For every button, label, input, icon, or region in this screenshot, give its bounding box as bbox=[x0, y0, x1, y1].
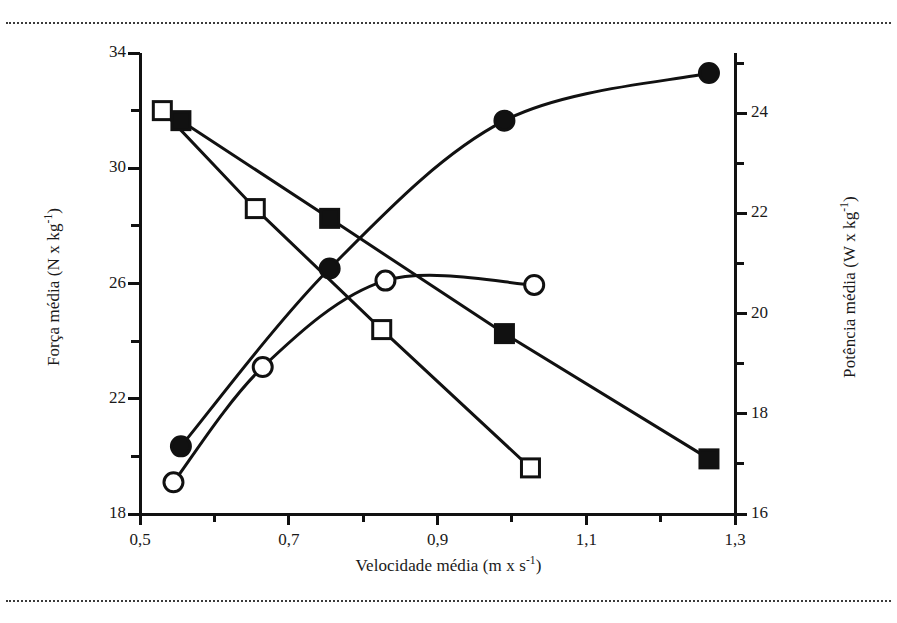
y-left-axis-title-exponent: -1 bbox=[42, 214, 55, 224]
y-right-tick-label-1: 22 bbox=[751, 202, 811, 222]
series-line-1 bbox=[173, 275, 534, 482]
data-point-marker-filled-square-2-0 bbox=[172, 112, 190, 130]
x-axis-title-exponent: -1 bbox=[526, 554, 536, 567]
data-point-marker-open-square-0-0 bbox=[153, 102, 171, 120]
x-tick-label-3: 1,1 bbox=[556, 530, 616, 550]
y-right-tick-label-0: 24 bbox=[751, 102, 811, 122]
axis-lines bbox=[140, 53, 735, 514]
figure-container: Velocidade média (m x s-1) Força média (… bbox=[0, 0, 897, 623]
data-point-marker-open-square-0-1 bbox=[246, 200, 264, 218]
data-point-marker-filled-circle-3-0 bbox=[171, 437, 190, 456]
series-markers bbox=[153, 64, 718, 492]
x-tick-label-0: 0,5 bbox=[110, 530, 170, 550]
series-line-0 bbox=[162, 111, 530, 468]
y-left-tick-label-0: 34 bbox=[66, 42, 126, 62]
y-left-tick-label-3: 22 bbox=[66, 388, 126, 408]
x-tick-label-2: 0,9 bbox=[408, 530, 468, 550]
data-point-marker-open-circle-1-2 bbox=[376, 271, 395, 290]
x-axis-title: Velocidade média (m x s-1) bbox=[0, 556, 897, 576]
data-point-marker-filled-square-2-1 bbox=[321, 209, 339, 227]
x-axis-title-close: ) bbox=[536, 556, 542, 575]
data-point-marker-filled-circle-3-2 bbox=[495, 111, 514, 130]
y-left-tick-label-1: 30 bbox=[66, 157, 126, 177]
x-tick-label-4: 1,3 bbox=[705, 530, 765, 550]
y-left-axis-title-close: ) bbox=[44, 208, 63, 214]
y-left-tick-label-2: 26 bbox=[66, 273, 126, 293]
y-left-axis-title-text: Força média (N x kg bbox=[44, 224, 63, 367]
series-line-2 bbox=[181, 121, 709, 459]
x-axis-title-text: Velocidade média (m x s bbox=[356, 556, 526, 575]
data-point-marker-open-square-0-2 bbox=[373, 321, 391, 339]
x-tick-label-1: 0,7 bbox=[259, 530, 319, 550]
y-right-axis-title-close: ) bbox=[840, 196, 859, 202]
y-right-tick-label-3: 18 bbox=[751, 403, 811, 423]
data-point-marker-filled-circle-3-1 bbox=[320, 259, 339, 278]
series-lines bbox=[162, 73, 709, 482]
data-point-marker-open-circle-1-1 bbox=[253, 358, 272, 377]
y-right-tick-label-2: 20 bbox=[751, 303, 811, 323]
data-point-marker-filled-square-2-3 bbox=[700, 450, 718, 468]
y-left-tick-label-4: 18 bbox=[66, 503, 126, 523]
data-point-marker-filled-square-2-2 bbox=[495, 325, 513, 343]
y-right-tick-label-4: 16 bbox=[751, 503, 811, 523]
data-point-marker-filled-circle-3-3 bbox=[699, 64, 718, 83]
data-point-marker-open-circle-1-0 bbox=[164, 473, 183, 492]
data-point-marker-open-square-0-3 bbox=[521, 459, 539, 477]
y-right-axis-title: Potência média (W x kg-1) bbox=[840, 137, 860, 437]
data-point-marker-open-circle-1-3 bbox=[525, 275, 544, 294]
y-right-axis-title-text: Potência média (W x kg bbox=[840, 212, 859, 378]
y-left-axis-title: Força média (N x kg-1) bbox=[44, 137, 64, 437]
y-right-axis-title-exponent: -1 bbox=[838, 202, 851, 212]
